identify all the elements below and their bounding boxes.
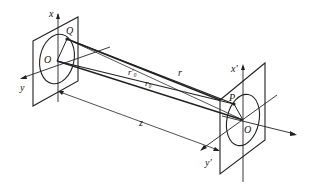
source-radius-line	[57, 39, 67, 61]
label-O-source: O	[44, 54, 51, 65]
ray-O-to-O-prime	[57, 61, 243, 120]
observation-x-arrow-icon	[241, 64, 245, 70]
label-r0-prime: r'₀	[128, 67, 137, 77]
label-y: y	[19, 82, 25, 93]
optical-axis-right	[222, 116, 295, 134]
label-x-prime: x'	[230, 63, 238, 74]
label-r: r	[178, 67, 182, 78]
z-arrow-right-icon	[213, 147, 220, 151]
label-x: x	[48, 8, 54, 19]
label-O-observation: O	[244, 124, 251, 135]
diagram-canvas: x Q O y r'₀ r₀ r z x' P O y'	[0, 0, 312, 187]
source-x-arrow-icon	[56, 13, 60, 19]
label-r0: r₀	[145, 78, 152, 88]
ray-Q-to-O-prime	[67, 39, 243, 120]
source-y-arrow-icon	[20, 75, 27, 79]
label-Q: Q	[66, 25, 74, 36]
label-P: P	[228, 92, 235, 103]
source-aperture-circle	[35, 31, 79, 87]
observation-y-axis	[202, 95, 277, 149]
label-z: z	[138, 117, 143, 128]
label-y-prime: y'	[204, 157, 212, 168]
optical-axis-arrow-icon	[290, 131, 297, 136]
